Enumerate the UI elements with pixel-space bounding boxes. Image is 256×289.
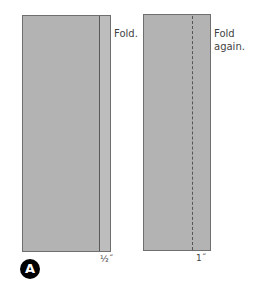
fold-line bbox=[99, 16, 100, 251]
folded-edge-strip bbox=[100, 16, 110, 251]
fold-again-line1: Fold bbox=[214, 27, 245, 40]
measurement-half-inch: ½˝ bbox=[100, 253, 113, 266]
fold-label: Fold. bbox=[114, 27, 138, 40]
step-badge-a: A bbox=[20, 259, 40, 279]
fold-again-line2: again. bbox=[214, 40, 245, 53]
measurement-one-inch: 1˝ bbox=[196, 252, 206, 265]
fabric-strip-left bbox=[22, 15, 111, 252]
dashed-fold-line bbox=[192, 16, 193, 250]
fabric-strip-right bbox=[143, 14, 211, 251]
fold-again-label: Fold again. bbox=[214, 27, 245, 53]
